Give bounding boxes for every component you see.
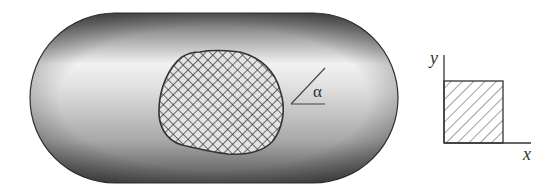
hatched-square <box>444 81 503 143</box>
axes-diagram: y x <box>428 48 531 164</box>
crosshatched-region <box>159 50 283 154</box>
x-axis-label: x <box>522 144 531 164</box>
y-axis-label: y <box>428 48 438 68</box>
diagram: α y x <box>0 0 558 192</box>
angle-label: α <box>313 82 322 101</box>
